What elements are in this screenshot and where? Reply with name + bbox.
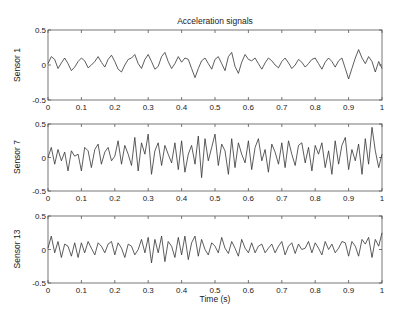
x-tick-label: 0.9 [343, 194, 355, 203]
x-tick-label: 0.7 [276, 194, 288, 203]
x-tick-label: 0.6 [243, 194, 255, 203]
y-tick-label: 0.5 [35, 120, 47, 129]
y-tick-label: -0.5 [32, 96, 46, 105]
x-tick-label: 0.1 [76, 194, 88, 203]
y-axis-label: Sensor 13 [12, 229, 22, 268]
x-tick-label: 0.9 [343, 286, 355, 295]
x-tick-label: 0 [46, 103, 51, 112]
sensor-13-panel: Sensor 13 -0.500.5 00.10.20.30.40.50.60.… [12, 212, 385, 295]
sensor-1-panel: Sensor 1 -0.500.5 00.10.20.30.40.50.60.7… [12, 26, 385, 112]
x-tick-label: 0.7 [276, 286, 288, 295]
x-tick-label: 0.4 [176, 286, 188, 295]
x-tick-label: 0.7 [276, 103, 288, 112]
y-tick-label: 0 [42, 246, 47, 255]
y-tick-label: 0.5 [35, 26, 47, 35]
x-tick-label: 0.8 [310, 103, 322, 112]
acceleration-chart-figure: Acceleration signals Sensor 1 -0.500.5 0… [0, 0, 403, 315]
chart-title: Acceleration signals [177, 16, 253, 26]
y-tick-label: -0.5 [32, 187, 46, 196]
x-tick-label: 0.3 [143, 103, 155, 112]
y-axis-label: Sensor 1 [12, 48, 22, 82]
x-axis-label: Time (s) [200, 294, 231, 304]
x-tick-label: 0.2 [109, 103, 121, 112]
x-tick-label: 0.9 [343, 103, 355, 112]
x-tick-label: 0.5 [209, 194, 221, 203]
x-tick-label: 0.6 [243, 103, 255, 112]
x-tick-label: 1 [380, 194, 385, 203]
x-tick-label: 0.2 [109, 286, 121, 295]
x-tick-label: 0.3 [143, 194, 155, 203]
y-tick-label: 0 [42, 61, 47, 70]
x-tick-label: 0.4 [176, 103, 188, 112]
x-tick-label: 0.3 [143, 286, 155, 295]
x-tick-label: 0.6 [243, 286, 255, 295]
x-tick-label: 0 [46, 194, 51, 203]
x-tick-label: 1 [380, 286, 385, 295]
x-tick-label: 0.8 [310, 194, 322, 203]
x-tick-label: 0.4 [176, 194, 188, 203]
x-tick-label: 0.2 [109, 194, 121, 203]
x-tick-label: 0.1 [76, 286, 88, 295]
x-tick-label: 0.1 [76, 103, 88, 112]
x-tick-label: 1 [380, 103, 385, 112]
x-tick-label: 0.8 [310, 286, 322, 295]
y-tick-label: 0 [42, 154, 47, 163]
plot-frame [48, 30, 382, 100]
x-tick-label: 0.5 [209, 103, 221, 112]
sensor-7-panel: Sensor 7 -0.500.5 00.10.20.30.40.50.60.7… [12, 120, 385, 203]
y-tick-label: 0.5 [35, 212, 47, 221]
y-tick-label: -0.5 [32, 279, 46, 288]
y-axis-label: Sensor 7 [12, 140, 22, 174]
plot-frame [48, 216, 382, 283]
x-tick-label: 0 [46, 286, 51, 295]
